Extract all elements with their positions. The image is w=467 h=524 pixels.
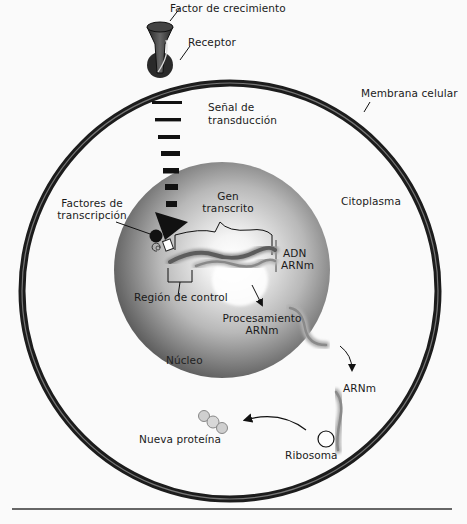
translation-arrow [245,417,306,430]
gene-expression-diagram: Factor de crecimiento Receptor Membrana … [0,0,467,524]
label-receptor: Receptor [188,36,236,48]
cytoplasm-mrna-strand [336,392,341,450]
ribosome-icon [318,431,334,447]
label-transcribed-gene-line2: transcrito [200,202,256,214]
label-processing-line1: Procesamiento [216,312,308,324]
label-ribosome: Ribosoma [285,449,338,461]
label-transcribed-gene-line1: Gen [200,190,256,202]
label-nucleus: Núcleo [166,354,203,366]
receptor-leader [180,46,190,60]
label-mrna-nucleus: ARNm [281,259,314,271]
label-transcription-factors-line2: transcripción [50,209,134,221]
label-control-region: Región de control [134,291,228,303]
receptor-icon [147,22,173,78]
label-signal-transduction-line1: Señal de [208,101,254,113]
label-growth-factor: Factor de crecimiento [170,2,286,14]
diagram-canvas [0,0,467,524]
label-dna: ADN [283,247,306,259]
bottom-divider [12,508,452,510]
label-processing-line2: ARNm [216,324,308,336]
export-arrow [340,346,352,370]
label-cytoplasm: Citoplasma [341,195,401,207]
label-transcription-factors-line1: Factores de [54,197,130,209]
label-signal-transduction-line2: transducción [208,114,277,126]
label-cell-membrane: Membrana celular [361,87,458,99]
label-mrna-cytoplasm: ARNm [343,382,376,394]
membrane-leader [364,102,370,112]
new-protein-icon [199,411,228,434]
label-new-protein: Nueva proteína [139,433,221,445]
